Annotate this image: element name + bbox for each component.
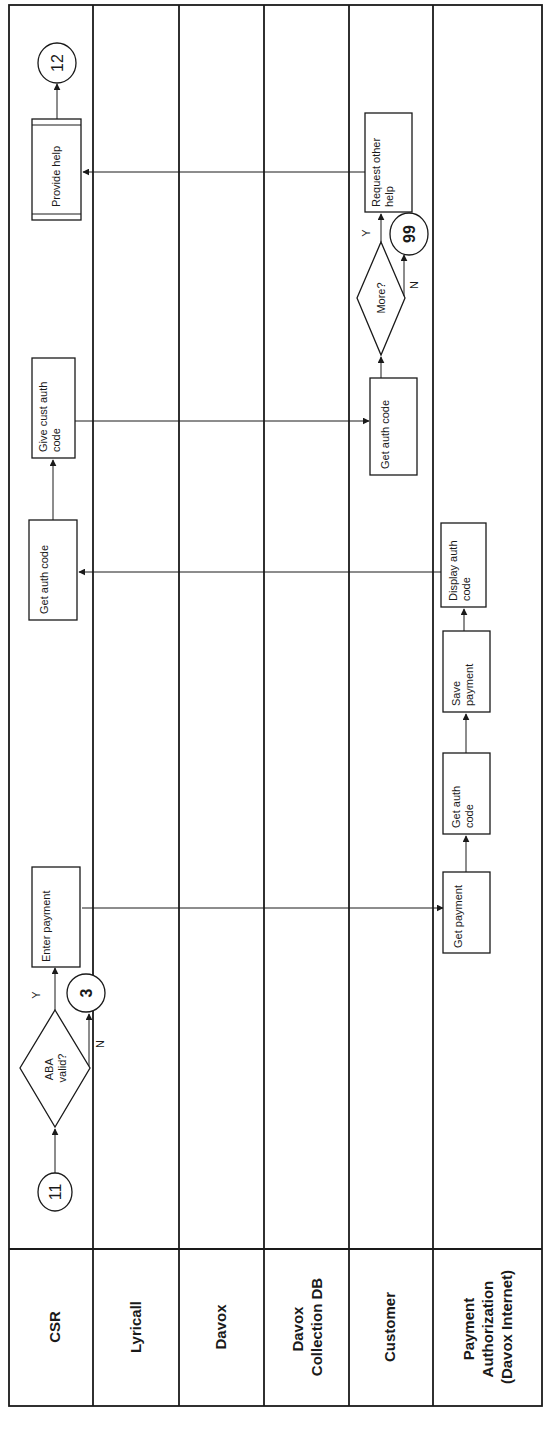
- swimlane-diagram: CSR Lyricall Davox Davox Collection DB C…: [0, 0, 554, 1454]
- process-save-payment: Save payment: [443, 631, 490, 712]
- lane-header-csr: CSR: [46, 1311, 63, 1343]
- svg-text:Get auth code: Get auth code: [38, 545, 50, 614]
- branch-label-more-no: N: [408, 281, 420, 289]
- svg-text:12: 12: [49, 54, 66, 72]
- svg-text:Enter payment: Enter payment: [40, 890, 52, 962]
- connector-99: 99: [390, 213, 428, 255]
- process-display-auth-code: Display auth code: [441, 523, 486, 607]
- svg-text:More?: More?: [375, 282, 387, 313]
- svg-text:ABA valid?: ABA valid?: [43, 1054, 68, 1083]
- process-request-other-help: Request other help: [365, 113, 412, 212]
- svg-text:3: 3: [78, 988, 95, 997]
- lane-header-payment-authorization: Payment Authorization (Davox Internet): [460, 1270, 515, 1384]
- lane-header-lyricall: Lyricall: [127, 1301, 144, 1353]
- svg-text:Get auth code: Get auth code: [379, 400, 391, 469]
- branch-label-aba-yes: Y: [30, 991, 42, 999]
- lane-header-davox-collection-db: Davox Collection DB: [289, 1278, 325, 1377]
- process-get-payment: Get payment: [443, 872, 490, 953]
- lane-header-customer: Customer: [381, 1292, 398, 1362]
- process-pa-get-auth-code: Get auth code: [443, 753, 490, 834]
- process-customer-get-auth-code: Get auth code: [370, 378, 417, 475]
- process-give-cust-auth-code: Give cust auth code: [32, 358, 75, 458]
- process-enter-payment: Enter payment: [32, 867, 80, 967]
- svg-text:Provide help: Provide help: [50, 146, 62, 207]
- connector-12: 12: [38, 43, 76, 83]
- svg-text:Get payment: Get payment: [452, 885, 464, 948]
- decision-aba-valid: ABA valid?: [20, 1010, 90, 1127]
- branch-label-aba-no: N: [94, 1040, 106, 1048]
- process-csr-get-auth-code: Get auth code: [29, 520, 77, 620]
- lane-header-davox: Davox: [212, 1304, 229, 1350]
- branch-label-more-yes: Y: [360, 229, 372, 237]
- svg-text:11: 11: [47, 1184, 64, 1201]
- decision-more: More?: [357, 242, 405, 355]
- svg-text:99: 99: [401, 225, 418, 243]
- lane-headers: CSR Lyricall Davox Davox Collection DB C…: [46, 1270, 515, 1384]
- connector-3: 3: [67, 974, 105, 1012]
- process-provide-help: Provide help: [32, 119, 81, 220]
- connector-11: 11: [38, 1173, 72, 1211]
